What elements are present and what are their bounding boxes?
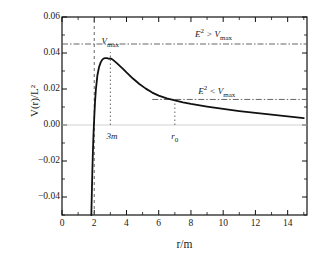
y-tick-label: −0.02 [26,155,60,165]
y-tick-label: 0.04 [26,47,60,57]
x-tick-label: 2 [82,218,106,228]
e2-above-vmax-label: E2 > Vmax [195,27,232,42]
x-tick-label: 8 [179,218,203,228]
x-axis-label: r/m [62,238,307,250]
x-tick-label: 4 [114,218,138,228]
x-tick-label: 14 [276,218,300,228]
plot-frame [62,17,307,215]
vmax-label: Vmax [102,36,120,49]
x-tick-label: 12 [243,218,267,228]
y-axis-label: V(r)/L² [28,61,40,141]
y-tick-label: −0.04 [26,191,60,201]
three-m-label: 3m [106,131,117,141]
x-tick-label: 10 [211,218,235,228]
y-tick-label: 0.02 [26,83,60,93]
r0-label: r0 [171,131,178,144]
y-tick-label: 0.00 [26,119,60,129]
e2-below-vmax-label: E2 < Vmax [198,84,235,99]
y-tick-label: 0.06 [26,11,60,21]
x-tick-label: 0 [50,218,74,228]
chart-figure: V(r)/L² r/m 02468101214 0.060.040.020.00… [0,0,325,263]
x-tick-label: 6 [147,218,171,228]
